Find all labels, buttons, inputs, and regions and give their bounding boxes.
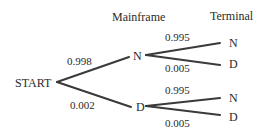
prob-N-N: 0.995: [165, 32, 190, 43]
branch-N-to-N: [146, 43, 220, 55]
header-terminal: Terminal: [210, 10, 253, 22]
node-terminal-D-D: D: [229, 111, 238, 123]
node-start: START: [15, 77, 51, 89]
probability-tree-diagram: Mainframe Terminal START 0.998 N 0.002 D…: [0, 0, 268, 136]
node-terminal-D-N: N: [229, 92, 238, 104]
branch-D-to-N: [146, 98, 220, 106]
node-terminal-N-D: D: [229, 58, 238, 70]
branch-D-to-D: [146, 106, 220, 115]
prob-start-N: 0.998: [67, 56, 92, 67]
node-mainframe-N: N: [133, 50, 142, 62]
prob-D-D: 0.005: [165, 118, 190, 129]
prob-start-D: 0.002: [70, 100, 95, 111]
prob-N-D: 0.005: [165, 63, 190, 74]
prob-D-N: 0.995: [165, 85, 190, 96]
node-mainframe-D: D: [136, 101, 145, 113]
node-terminal-N-N: N: [229, 37, 238, 49]
header-mainframe: Mainframe: [112, 11, 165, 23]
